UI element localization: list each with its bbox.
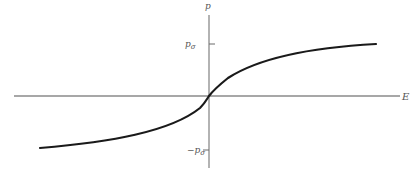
saturation-diagram: p E pσ −pσ xyxy=(0,0,414,178)
tick-upper-label: pσ xyxy=(185,39,196,51)
x-axis-label: E xyxy=(401,91,410,102)
tick-lower-label: −pσ xyxy=(187,145,205,157)
y-axis-label: p xyxy=(205,1,211,11)
